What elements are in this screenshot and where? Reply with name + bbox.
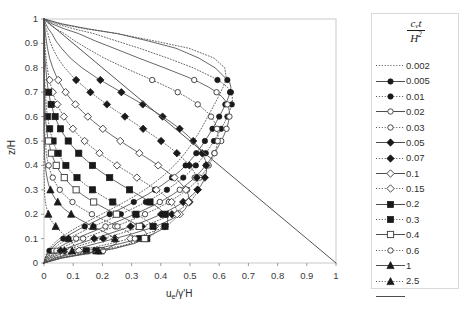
- legend-line-sample: [375, 258, 406, 273]
- x-tick-label: 0.8: [264, 271, 292, 281]
- legend-item[interactable]: 0.002: [375, 58, 457, 73]
- x-tick-label: 0.2: [88, 271, 116, 281]
- isochrone-markers: [44, 114, 156, 254]
- legend-item-label: 0.005: [406, 76, 430, 86]
- legend-item-label: 0.01: [406, 92, 425, 102]
- legend-item-label: 0.3: [406, 215, 419, 225]
- legend-item[interactable]: 2.5: [375, 273, 457, 288]
- legend-title-denominator: H2: [407, 31, 425, 44]
- x-tick-label: 0.1: [59, 271, 87, 281]
- legend-item[interactable]: [375, 289, 457, 304]
- legend-line-sample: [375, 135, 406, 150]
- legend-line-sample: [375, 104, 406, 119]
- legend-item[interactable]: 0.07: [375, 150, 457, 165]
- consolidation-isochrone-figure: 00.10.20.30.40.50.60.70.80.9100.10.20.30…: [0, 0, 463, 310]
- legend-item[interactable]: 0.4: [375, 227, 457, 242]
- legend-item[interactable]: 0.15: [375, 181, 457, 196]
- legend-line-sample: [375, 274, 406, 289]
- legend-item-label: 1: [406, 261, 411, 271]
- x-tick-label: 0.5: [176, 271, 204, 281]
- chart-canvas: [0, 0, 370, 310]
- legend-item[interactable]: 0.05: [375, 135, 457, 150]
- legend-item[interactable]: 0.01: [375, 89, 457, 104]
- y-tick-label: 0.1: [8, 234, 38, 244]
- y-tick-label: 0.2: [8, 209, 38, 219]
- x-tick-label: 0.9: [293, 271, 321, 281]
- legend-title-numerator: cvt: [407, 18, 425, 31]
- legend-item-label: 0.2: [406, 199, 419, 209]
- x-tick-label: 0: [30, 271, 58, 281]
- legend-line-sample: [375, 243, 406, 258]
- legend-item-label: 0.02: [406, 107, 425, 117]
- legend-title: cvt H2: [372, 18, 460, 45]
- y-tick-label: 0.7: [8, 87, 38, 97]
- y-tick-label: 0.4: [8, 160, 38, 170]
- x-tick-label: 0.3: [118, 271, 146, 281]
- y-axis-title: z/H: [6, 140, 17, 155]
- legend-line-sample: [375, 289, 406, 304]
- x-tick-label: 0.4: [147, 271, 175, 281]
- plot-area: 00.10.20.30.40.50.60.70.80.9100.10.20.30…: [0, 0, 370, 310]
- x-axis-title: ue/γ'H: [166, 288, 192, 300]
- legend-line-sample: [375, 227, 406, 242]
- y-tick-label: 0.6: [8, 112, 38, 122]
- x-axis-title-rest: /γ'H: [175, 288, 192, 299]
- y-tick-label: 0.3: [8, 185, 38, 195]
- x-tick-label: 0.6: [205, 271, 233, 281]
- isochrone-curves: [44, 19, 336, 263]
- legend-line-sample: [375, 212, 406, 227]
- legend-line-sample: [375, 58, 406, 73]
- legend-item-label: 0.15: [406, 184, 425, 194]
- y-tick-label: 0.8: [8, 63, 38, 73]
- legend-item-label: 0.03: [406, 123, 425, 133]
- legend-item[interactable]: 0.02: [375, 104, 457, 119]
- legend-line-sample: [375, 74, 406, 89]
- legend-item-label: 0.1: [406, 169, 419, 179]
- legend-item[interactable]: 0.005: [375, 73, 457, 88]
- legend-line-sample: [375, 120, 406, 135]
- legend-item-label: 0.6: [406, 246, 419, 256]
- legend-item-label: 0.07: [406, 153, 425, 163]
- legend-item-list: 0.0020.0050.010.020.030.050.070.10.150.2…: [375, 58, 457, 304]
- y-tick-label: 0.9: [8, 38, 38, 48]
- x-tick-label: 0.7: [234, 271, 262, 281]
- legend-item[interactable]: 0.03: [375, 120, 457, 135]
- legend-item-label: 2.5: [406, 276, 419, 286]
- legend-item[interactable]: 0.6: [375, 243, 457, 258]
- legend-line-sample: [375, 89, 406, 104]
- y-tick-label: 1: [8, 14, 38, 24]
- y-tick-label: 0: [8, 258, 38, 268]
- legend-item[interactable]: 0.3: [375, 212, 457, 227]
- legend-line-sample: [375, 181, 406, 196]
- legend-item-label: 0.002: [406, 61, 430, 71]
- legend-line-sample: [375, 197, 406, 212]
- legend-line-sample: [375, 151, 406, 166]
- legend-item[interactable]: 0.1: [375, 166, 457, 181]
- legend-box: cvt H2 0.0020.0050.010.020.030.050.070.1…: [371, 13, 459, 289]
- legend-item-label: 0.05: [406, 138, 425, 148]
- legend-line-sample: [375, 166, 406, 181]
- legend-item-label: 0.4: [406, 230, 419, 240]
- x-tick-label: 1: [322, 271, 350, 281]
- legend-item[interactable]: 0.2: [375, 197, 457, 212]
- isochrone-markers: [54, 76, 192, 254]
- legend-item[interactable]: 1: [375, 258, 457, 273]
